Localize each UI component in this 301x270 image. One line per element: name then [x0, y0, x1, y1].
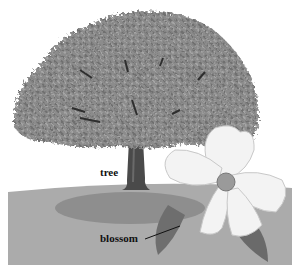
tree-and-blossom-illustration	[0, 0, 301, 270]
label-tree: tree	[100, 166, 118, 178]
blossom-center	[217, 173, 235, 191]
label-blossom: blossom	[100, 232, 138, 244]
